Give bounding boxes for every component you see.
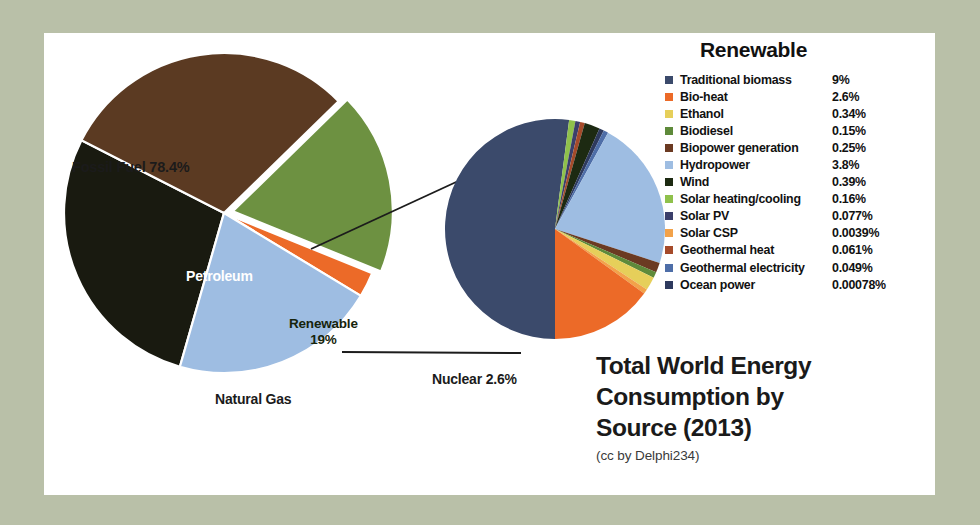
legend-heading: Renewable: [700, 38, 935, 62]
legend-item-value: 0.25%: [832, 141, 866, 155]
label-natural-gas: Natural Gas: [215, 391, 291, 407]
legend-item-value: 0.39%: [832, 175, 866, 189]
legend-row: Solar heating/cooling0.16%: [665, 191, 935, 208]
legend-item-label: Traditional biomass: [680, 73, 832, 87]
legend-swatch-icon: [665, 76, 673, 84]
legend-swatch-icon: [665, 161, 673, 169]
legend-row: Bio-heat2.6%: [665, 88, 935, 105]
chart-title-block: Total World Energy Consumption by Source…: [596, 351, 926, 463]
legend-item-label: Geothermal electricity: [680, 261, 832, 275]
label-nuclear: Nuclear 2.6%: [432, 371, 517, 387]
chart-credit: (cc by Delphi234): [596, 448, 926, 463]
legend-item-value: 0.077%: [832, 209, 873, 223]
legend-swatch-icon: [665, 281, 673, 289]
label-petroleum: Petroleum: [186, 268, 253, 284]
legend-row: Geothermal electricity0.049%: [665, 259, 935, 276]
legend-item-label: Solar heating/cooling: [680, 192, 832, 206]
legend-item-label: Solar PV: [680, 209, 832, 223]
legend-item-label: Wind: [680, 175, 832, 189]
legend-row: Wind0.39%: [665, 174, 935, 191]
label-renewable-value: 19%: [310, 332, 336, 347]
legend-row: Ethanol0.34%: [665, 105, 935, 122]
legend-item-value: 0.049%: [832, 261, 873, 275]
legend-swatch-icon: [665, 264, 673, 272]
legend-item-value: 0.061%: [832, 243, 873, 257]
legend-item-value: 2.6%: [832, 90, 859, 104]
legend-row: Solar PV0.077%: [665, 208, 935, 225]
legend-item-label: Geothermal heat: [680, 243, 832, 257]
title-line-2: Consumption by: [596, 382, 926, 413]
label-coal: Coal: [128, 411, 158, 427]
legend-swatch-icon: [665, 178, 673, 186]
legend-swatch-icon: [665, 212, 673, 220]
legend-row: Biopower generation0.25%: [665, 139, 935, 156]
legend-swatch-icon: [665, 127, 673, 135]
legend-item-label: Biodiesel: [680, 124, 832, 138]
legend-item-value: 9%: [832, 73, 849, 87]
legend-row: Geothermal heat0.061%: [665, 242, 935, 259]
legend-row: Traditional biomass9%: [665, 71, 935, 88]
legend-swatch-icon: [665, 110, 673, 118]
renewable-inset-pie-svg: [443, 117, 667, 341]
legend-item-value: 0.34%: [832, 107, 866, 121]
legend-row: Biodiesel0.15%: [665, 122, 935, 139]
legend-swatch-icon: [665, 144, 673, 152]
pie-slice: [445, 119, 569, 339]
label-renewable: Renewable 19%: [289, 316, 358, 349]
main-pie-svg: [54, 43, 414, 373]
legend-item-value: 0.00078%: [832, 278, 886, 292]
legend-swatch-icon: [665, 246, 673, 254]
label-renewable-name: Renewable: [289, 316, 358, 331]
legend-item-label: Ocean power: [680, 278, 832, 292]
legend-row: Ocean power0.00078%: [665, 276, 935, 293]
legend-swatch-icon: [665, 229, 673, 237]
legend-item-label: Solar CSP: [680, 226, 832, 240]
legend-swatch-icon: [665, 93, 673, 101]
legend-item-label: Biopower generation: [680, 141, 832, 155]
legend-item-value: 0.15%: [832, 124, 866, 138]
legend-item-label: Ethanol: [680, 107, 832, 121]
legend-row: Hydropower3.8%: [665, 156, 935, 173]
legend-item-value: 0.0039%: [832, 226, 879, 240]
legend-row: Solar CSP0.0039%: [665, 225, 935, 242]
legend-rows: Traditional biomass9%Bio-heat2.6%Ethanol…: [665, 71, 935, 293]
legend-item-value: 3.8%: [832, 158, 859, 172]
legend-item-value: 0.16%: [832, 192, 866, 206]
renewable-legend: Renewable Traditional biomass9%Bio-heat2…: [665, 38, 935, 293]
title-line-3: Source (2013): [596, 413, 926, 444]
legend-swatch-icon: [665, 195, 673, 203]
title-line-1: Total World Energy: [596, 351, 926, 382]
label-fossil-fuel: Fossil Fuel 78.4%: [72, 159, 189, 175]
main-pie-chart: Fossil Fuel 78.4% Petroleum Coal Natural…: [44, 33, 424, 495]
legend-item-label: Bio-heat: [680, 90, 832, 104]
chart-panel: Fossil Fuel 78.4% Petroleum Coal Natural…: [44, 33, 935, 495]
legend-item-label: Hydropower: [680, 158, 832, 172]
